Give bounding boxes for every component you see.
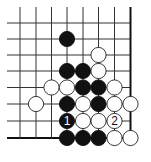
white-stone-icon [123,96,138,111]
black-stone-icon [91,96,106,111]
white-stone-icon [91,47,106,62]
white-stone-icon [107,96,122,111]
black-stone [91,130,106,145]
white-stone-icon [28,96,43,111]
black-stone-icon [75,130,90,145]
white-stone-icon [75,113,90,128]
black-stone: 1 [59,113,74,128]
move-number-label: 1 [64,114,71,128]
black-stone-icon [59,130,74,145]
black-stone-icon [75,63,90,78]
black-stone [75,80,90,95]
black-stone-icon [59,63,74,78]
white-stone [107,96,122,111]
black-stone-icon [91,80,106,95]
white-stone: 2 [107,113,122,128]
white-stone [107,80,122,95]
white-stone [91,63,106,78]
white-stone-icon [91,63,106,78]
white-stone-icon [44,80,59,95]
white-stone [28,96,43,111]
black-stone-icon [75,80,90,95]
white-stone-icon [75,96,90,111]
white-stone [107,130,122,145]
white-stone [44,80,59,95]
white-stone-icon [59,80,74,95]
black-stone [75,130,90,145]
white-stone [91,113,106,128]
move-number-label: 2 [111,114,118,128]
black-stone [91,96,106,111]
white-stone-icon [107,130,122,145]
black-stone [59,63,74,78]
white-stone [123,96,138,111]
black-stone [75,63,90,78]
white-stone-icon [91,113,106,128]
white-stone [123,130,138,145]
black-stone-icon [59,96,74,111]
black-stone [59,96,74,111]
black-stone [59,130,74,145]
go-board: 12 [0,0,151,162]
white-stone-icon [123,130,138,145]
white-stone-icon [107,80,122,95]
white-stone [91,47,106,62]
black-stone [59,31,74,46]
black-stone-icon [91,130,106,145]
white-stone [59,80,74,95]
black-stone [91,80,106,95]
white-stone [75,113,90,128]
white-stone [75,96,90,111]
black-stone-icon [59,31,74,46]
